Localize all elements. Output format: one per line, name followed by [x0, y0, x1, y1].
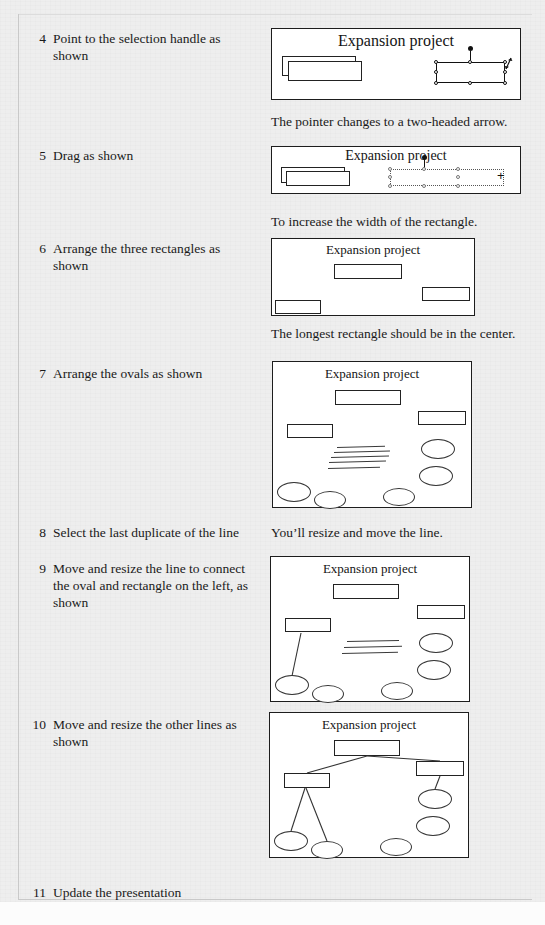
step-instruction: Move and resize the line to connect the … [53, 560, 258, 611]
page-bottom-margin [0, 902, 545, 925]
selection-handle-top-center[interactable] [422, 167, 426, 171]
shape-oval-bottom-second [314, 491, 346, 509]
duplicated-line-3 [331, 455, 389, 458]
selection-handle-bottom-center[interactable] [422, 184, 426, 188]
shape-oval-bottom-right [383, 488, 415, 506]
duplicated-line-2 [334, 451, 390, 453]
step-instruction: Drag as shown [53, 147, 258, 164]
shape-oval-right-lower [416, 816, 450, 836]
resize-crosshair-cursor: + [497, 171, 505, 180]
rotation-handle-stem [470, 51, 471, 60]
slide-preview-step-4: Expansion project [271, 28, 521, 100]
step-number: 9 [26, 560, 46, 577]
duplicated-line-1 [337, 446, 385, 448]
shape-rectangle-left [284, 773, 330, 788]
rotation-handle-knob [422, 155, 427, 160]
duplicated-line-1 [347, 640, 399, 642]
selection-handle-bottom-center[interactable] [468, 81, 472, 85]
step-number: 10 [26, 716, 46, 733]
slide-title: Expansion project [272, 148, 520, 164]
slide-preview-step-9: Expansion project [270, 556, 470, 702]
selection-handle-top-center[interactable] [468, 60, 472, 64]
shape-oval-right-lower [417, 660, 451, 680]
step-caption-8: You’ll resize and move the line. [271, 524, 443, 541]
selection-handle-bottom-left[interactable] [434, 81, 438, 85]
shape-oval-bottom-right [380, 838, 412, 856]
step-number: 4 [26, 30, 46, 47]
shape-rectangle-front [286, 171, 350, 186]
slide-title: Expansion project [271, 561, 469, 577]
shape-rectangle-top [333, 584, 399, 599]
step-number: 6 [26, 240, 46, 257]
shape-rectangle-left [287, 424, 333, 438]
selection-handle-middle-left[interactable] [434, 70, 438, 74]
shape-oval-right-lower [419, 466, 453, 486]
selection-handle-top-left[interactable] [388, 167, 392, 171]
selection-handle-bottom-right[interactable] [456, 184, 460, 188]
shape-rectangle-left [275, 300, 321, 314]
selection-handle-middle-right[interactable] [503, 70, 507, 74]
shape-oval-bottom-second [311, 841, 343, 859]
shape-rectangle-right [418, 411, 466, 425]
step-number: 11 [26, 884, 46, 901]
shape-rectangle-top [335, 390, 401, 405]
shape-rectangle-right [417, 605, 465, 619]
shape-oval-bottom-right [381, 682, 413, 700]
step-caption-5: To increase the width of the rectangle. [271, 213, 477, 230]
content-frame-top-rule [18, 14, 532, 15]
content-frame-left-rule [18, 14, 19, 900]
selection-handle-middle-left[interactable] [388, 175, 392, 179]
shape-oval-bottom-second [312, 685, 344, 703]
shape-rectangle-right [416, 761, 464, 776]
shape-rectangle-selected [436, 62, 505, 83]
selection-handle-bottom-left[interactable] [388, 184, 392, 188]
step-caption-4: The pointer changes to a two-headed arro… [271, 113, 507, 130]
step-instruction: Update the presentation [53, 884, 258, 901]
slide-title: Expansion project [270, 717, 468, 733]
step-instruction: Select the last duplicate of the line [53, 524, 258, 541]
step-number: 8 [26, 524, 46, 541]
selection-handle-top-left[interactable] [434, 60, 438, 64]
shape-oval-bottom-left [277, 482, 311, 502]
shape-oval-bottom-left [275, 675, 309, 695]
selection-handle-middle-right[interactable] [456, 175, 460, 179]
step-number: 5 [26, 147, 46, 164]
shape-oval-right-upper [421, 439, 455, 459]
step-instruction: Point to the selection handle as shown [53, 30, 258, 64]
duplicated-line-5 [328, 467, 380, 469]
rotation-handle-knob [468, 46, 473, 51]
shape-rectangle-right [422, 287, 470, 301]
selection-handle-top-right[interactable] [503, 60, 507, 64]
duplicated-line-2 [344, 646, 402, 648]
duplicated-line-3 [342, 652, 398, 654]
shape-rectangle-left [285, 618, 331, 632]
shape-oval-right-upper [418, 789, 452, 809]
slide-title: Expansion project [273, 366, 471, 382]
slide-preview-step-6: Expansion project [271, 238, 475, 316]
step-number: 7 [26, 365, 46, 382]
step-instruction: Move and resize the other lines as shown [53, 716, 258, 750]
shape-oval-right-upper [419, 633, 453, 653]
step-instruction: Arrange the ovals as shown [53, 365, 258, 382]
selection-handle-top-right[interactable] [456, 167, 460, 171]
shape-rectangle-front [288, 61, 362, 81]
running-header [6, 0, 206, 6]
step-instruction: Arrange the three rectangles as shown [53, 240, 258, 274]
slide-preview-step-5: Expansion project + [271, 146, 521, 194]
selection-handle-bottom-right[interactable] [503, 81, 507, 85]
duplicated-line-4 [329, 461, 386, 463]
drag-preview-outline [390, 169, 504, 186]
slide-title: Expansion project [272, 32, 520, 50]
slide-preview-step-10: Expansion project [269, 712, 469, 858]
shape-rectangle-top [334, 740, 400, 756]
slide-preview-step-7: Expansion project [272, 361, 472, 508]
slide-title: Expansion project [272, 242, 474, 258]
shape-rectangle-center [334, 264, 402, 279]
step-caption-6: The longest rectangle should be in the c… [271, 325, 515, 342]
shape-oval-bottom-left [274, 831, 308, 851]
